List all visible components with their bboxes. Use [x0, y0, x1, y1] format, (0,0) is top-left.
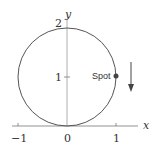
y-tick-label-2: 2: [55, 17, 62, 30]
y-axis-label: y: [64, 8, 72, 21]
x-tick-label-0: 0: [64, 132, 71, 145]
spot-label: Spot: [92, 71, 111, 81]
y-tick-label-1: 1: [55, 71, 62, 84]
spot-marker: [114, 74, 119, 79]
circle-diagram: Spot y x 2 1 −1 0 1: [0, 0, 158, 153]
x-tick-label-neg1: −1: [11, 132, 27, 145]
x-tick-label-1: 1: [113, 132, 120, 145]
x-axis-label: x: [143, 119, 150, 132]
arrowhead-icon: [128, 84, 134, 92]
